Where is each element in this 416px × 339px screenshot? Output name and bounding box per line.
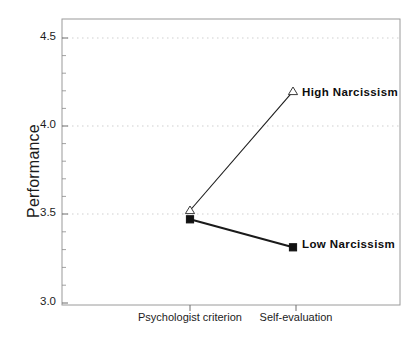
y-minor-ticks <box>62 56 66 286</box>
plot-frame <box>62 19 400 305</box>
y-major-ticks <box>62 38 68 303</box>
series-line-high-narcissism <box>190 91 293 210</box>
chart-figure: Performance 4.5 4.0 3.5 3.0 Psychologist… <box>0 0 416 339</box>
gridlines <box>62 38 400 214</box>
x-ticks <box>190 305 296 311</box>
plot-canvas <box>0 0 416 339</box>
marker-open-triangle <box>288 87 297 95</box>
marker-filled-square <box>186 216 193 223</box>
series-line-low-narcissism <box>190 219 293 247</box>
series-high-narcissism <box>185 87 297 214</box>
series-low-narcissism <box>186 216 296 251</box>
marker-filled-square <box>289 244 296 251</box>
